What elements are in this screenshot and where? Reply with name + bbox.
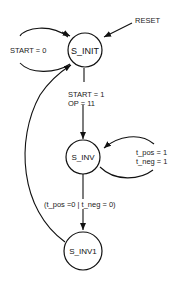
tpos1-label: t_pos = 1 (136, 148, 167, 157)
init-loop-lower (20, 63, 70, 71)
state-s-inv1: S_INV1 (64, 232, 102, 270)
transition-inv-self-loop: t_pos = 1 t_neg = 1 (100, 137, 168, 178)
reset-arrow (104, 23, 132, 37)
tneg1-label: t_neg = 1 (136, 157, 168, 166)
reset-label: RESET (135, 16, 160, 25)
state-label: S_INIT (71, 46, 100, 56)
state-label: S_INV (71, 153, 95, 162)
transition-reset: RESET (104, 16, 160, 37)
inv1-to-init-arc (25, 65, 71, 242)
transition-inv-to-inv1: (t_pos =0 | t_neg = 0) (44, 174, 120, 230)
op11-label: OP = 11 (68, 99, 95, 108)
state-s-inv: S_INV (66, 140, 100, 174)
start0-label: START = 0 (10, 46, 46, 55)
tpos0-tneg0-label: (t_pos =0 | t_neg = 0) (44, 200, 116, 209)
transition-inv1-to-init (25, 65, 71, 242)
inv-loop-lower (100, 167, 153, 178)
transition-init-to-inv: START = 1 OP = 11 (68, 68, 104, 139)
state-s-init: S_INIT (68, 33, 102, 67)
start1-label: START = 1 (68, 90, 104, 99)
transition-init-self-loop: START = 0 (10, 28, 70, 71)
state-label: S_INV1 (69, 247, 97, 256)
state-diagram: RESET START = 0 START = 1 OP = 11 t_pos … (0, 0, 177, 288)
inv-loop-upper (104, 137, 154, 148)
init-loop-upper (20, 28, 68, 37)
